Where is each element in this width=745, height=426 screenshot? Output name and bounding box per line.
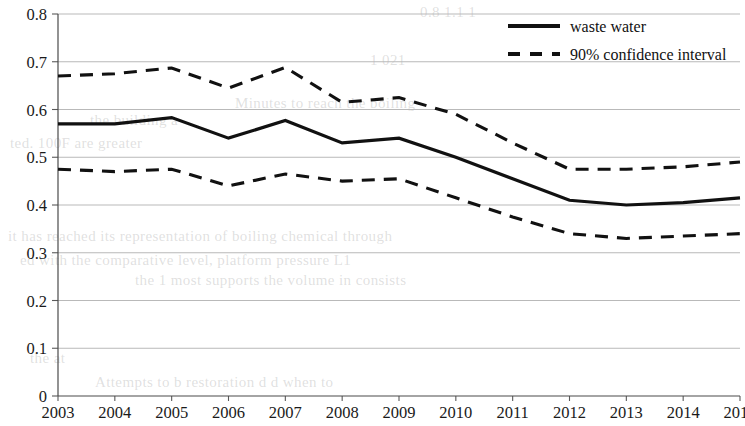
y-axis-tick-label: 0.3 bbox=[26, 244, 47, 263]
data-series-group bbox=[58, 67, 740, 238]
chart-container: 0.8 1.1 11 021Minutes to reach the boili… bbox=[0, 0, 745, 426]
x-axis-tick-label: 2015 bbox=[724, 403, 745, 422]
gridlines-group bbox=[58, 14, 740, 348]
x-axis-tick-label: 2009 bbox=[383, 403, 416, 422]
x-axis-tick-label: 2012 bbox=[553, 403, 586, 422]
x-axis-tick-label: 2003 bbox=[42, 403, 75, 422]
x-axis-tick-label: 2013 bbox=[610, 403, 643, 422]
x-axis-tick-label: 2010 bbox=[439, 403, 472, 422]
y-axis-tick-label: 0.8 bbox=[26, 5, 47, 24]
x-axis-tick-label: 2011 bbox=[496, 403, 528, 422]
y-axis-ticks-group bbox=[52, 14, 58, 396]
x-axis-tick-label: 2006 bbox=[212, 403, 245, 422]
legend-label: waste water bbox=[570, 18, 647, 35]
y-axis-tick-label: 0.7 bbox=[26, 53, 47, 72]
x-axis-tick-label: 2008 bbox=[326, 403, 359, 422]
y-axis-tick-label: 0.2 bbox=[26, 292, 47, 311]
x-axis-labels-group: 2003200420052006200720082009201020112012… bbox=[42, 403, 745, 422]
y-axis-labels-group: 00.10.20.30.40.50.60.70.8 bbox=[26, 5, 47, 406]
x-axis-tick-label: 2005 bbox=[155, 403, 188, 422]
legend-label: 90% confidence interval bbox=[570, 46, 727, 63]
x-axis-tick-label: 2004 bbox=[98, 403, 131, 422]
x-axis-ticks-group bbox=[58, 396, 740, 401]
y-axis-tick-label: 0.4 bbox=[26, 196, 47, 215]
line-chart: 00.10.20.30.40.50.60.70.8 20032004200520… bbox=[0, 0, 745, 426]
series-line-waste-water bbox=[58, 118, 740, 205]
x-axis-tick-label: 2014 bbox=[667, 403, 700, 422]
x-axis-tick-label: 2007 bbox=[269, 403, 302, 422]
y-axis-tick-label: 0.5 bbox=[26, 148, 47, 167]
chart-legend: waste water90% confidence interval bbox=[508, 18, 727, 63]
y-axis-tick-label: 0.6 bbox=[26, 101, 47, 120]
y-axis-tick-label: 0.1 bbox=[26, 339, 47, 358]
